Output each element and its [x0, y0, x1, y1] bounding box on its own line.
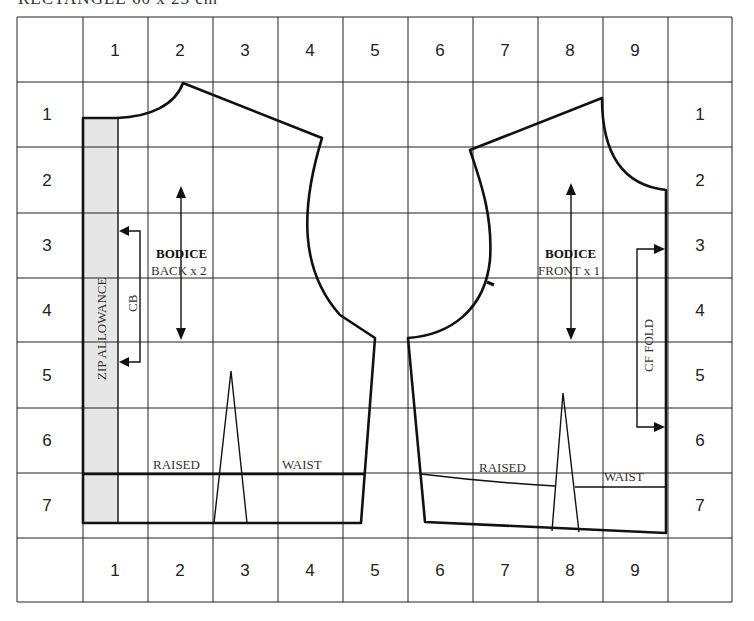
column-labels-bottom: 1 2 3 4 5 6 7 8 9: [110, 561, 639, 580]
svg-text:3: 3: [240, 561, 249, 580]
svg-text:1: 1: [695, 105, 704, 124]
svg-text:1: 1: [110, 561, 119, 580]
front-waist-label: WAIST: [604, 469, 644, 484]
svg-text:4: 4: [695, 301, 704, 320]
cb-label: CB: [125, 294, 140, 312]
svg-text:4: 4: [305, 41, 314, 60]
row-labels-right: 1 2 3 4 5 6 7: [695, 105, 704, 515]
back-raised-label: RAISED: [153, 457, 200, 472]
svg-text:7: 7: [695, 496, 704, 515]
row-labels-left: 1 2 3 4 5 6 7: [42, 105, 51, 515]
svg-text:3: 3: [240, 41, 249, 60]
svg-text:8: 8: [565, 561, 574, 580]
svg-text:4: 4: [42, 301, 51, 320]
pattern-diagram: 1 2 3 4 5 6 7 8 9 1 2 3 4 5 6 7 8 9 1 2 …: [0, 0, 754, 621]
svg-text:7: 7: [42, 496, 51, 515]
front-dart: [552, 393, 579, 532]
back-dart: [214, 371, 247, 523]
svg-text:1: 1: [110, 41, 119, 60]
svg-text:7: 7: [500, 41, 509, 60]
svg-text:6: 6: [695, 431, 704, 450]
back-piece-cut: BACK x 2: [151, 263, 207, 278]
zip-allowance-label: ZIP ALLOWANCE: [94, 278, 109, 380]
svg-text:1: 1: [42, 105, 51, 124]
back-piece-name: BODICE: [156, 246, 207, 261]
svg-text:2: 2: [175, 41, 184, 60]
svg-text:3: 3: [42, 236, 51, 255]
svg-text:2: 2: [695, 171, 704, 190]
svg-text:5: 5: [42, 366, 51, 385]
svg-text:5: 5: [370, 41, 379, 60]
svg-text:6: 6: [435, 41, 444, 60]
svg-text:6: 6: [435, 561, 444, 580]
svg-text:2: 2: [175, 561, 184, 580]
bodice-front-piece: [408, 98, 666, 533]
cf-fold-label: CF FOLD: [641, 319, 656, 372]
svg-text:5: 5: [370, 561, 379, 580]
svg-text:9: 9: [630, 561, 639, 580]
svg-text:7: 7: [500, 561, 509, 580]
front-raised-label: RAISED: [479, 460, 526, 475]
svg-text:9: 9: [630, 41, 639, 60]
front-piece-cut: FRONT x 1: [538, 263, 600, 278]
svg-text:3: 3: [695, 236, 704, 255]
svg-text:6: 6: [42, 431, 51, 450]
svg-text:8: 8: [565, 41, 574, 60]
back-waist-label: WAIST: [282, 457, 322, 472]
svg-text:4: 4: [305, 561, 314, 580]
column-labels-top: 1 2 3 4 5 6 7 8 9: [110, 41, 639, 60]
svg-text:2: 2: [42, 171, 51, 190]
front-piece-name: BODICE: [545, 246, 596, 261]
svg-text:5: 5: [695, 366, 704, 385]
